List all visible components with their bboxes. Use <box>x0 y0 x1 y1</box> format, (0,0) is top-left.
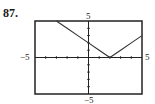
y-min-label: −5 <box>84 96 94 104</box>
x-min-label: −5 <box>20 53 30 62</box>
y-max-label: 5 <box>86 12 91 21</box>
x-max-label: 5 <box>145 53 150 62</box>
function-curve <box>56 21 142 58</box>
